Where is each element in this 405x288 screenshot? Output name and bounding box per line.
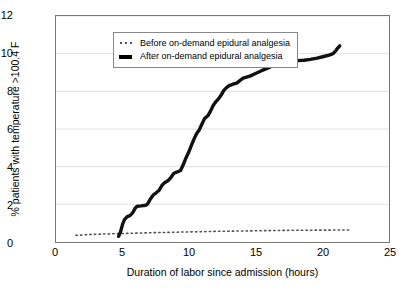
plot-area: Before on-demand epidural analgesia Afte…: [55, 15, 390, 243]
series-line-after: [119, 46, 340, 237]
legend-entry-after: After on-demand epidural analgesia: [119, 50, 290, 63]
y-tick-label-12: 12: [0, 10, 13, 21]
y-tick-label-0: 0: [0, 238, 13, 249]
x-tick-label-20: 20: [303, 247, 343, 258]
legend-entry-before: Before on-demand epidural analgesia: [119, 37, 290, 50]
data-series-layer: [76, 46, 349, 237]
x-axis-title: Duration of labor since admission (hours…: [55, 266, 390, 278]
x-tick-label-25: 25: [370, 247, 405, 258]
x-tick-label-15: 15: [236, 247, 276, 258]
solid-line-swatch-icon: [119, 52, 136, 61]
y-tick-label-10: 10: [0, 48, 13, 59]
x-tick-label-10: 10: [169, 247, 209, 258]
x-tick-label-0: 0: [35, 247, 75, 258]
legend-label-before: Before on-demand epidural analgesia: [140, 39, 290, 48]
legend-label-after: After on-demand epidural analgesia: [140, 52, 283, 61]
chart-legend: Before on-demand epidural analgesia Afte…: [113, 32, 298, 68]
x-tick-label-5: 5: [102, 247, 142, 258]
series-line-before: [76, 230, 349, 235]
y-tick-label-4: 4: [0, 162, 13, 173]
chart-figure: % patients with temperature >100.4 F 12 …: [0, 0, 405, 288]
y-tick-label-8: 8: [0, 86, 13, 97]
y-tick-label-2: 2: [0, 200, 13, 211]
dotted-line-swatch-icon: [119, 39, 136, 48]
y-tick-label-6: 6: [0, 124, 13, 135]
